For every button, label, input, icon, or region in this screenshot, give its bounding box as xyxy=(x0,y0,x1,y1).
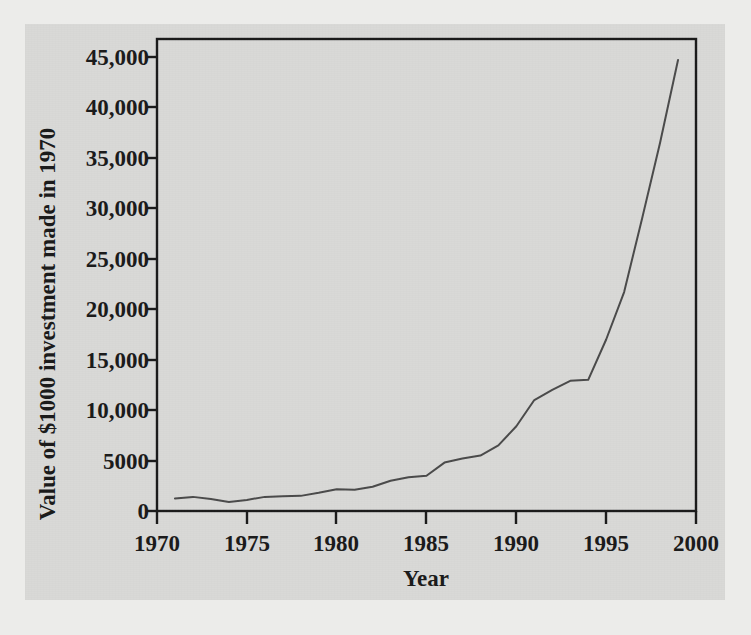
y-tick-label: 20,000 xyxy=(86,297,149,322)
plot-frame xyxy=(157,39,696,511)
y-tick-label: 35,000 xyxy=(86,146,149,171)
x-tick-label: 1995 xyxy=(583,531,629,556)
y-axis-ticks xyxy=(146,57,157,511)
x-tick-label: 1985 xyxy=(403,531,449,556)
scanned-page: Value of $1000 investment made in 1970 0… xyxy=(0,0,751,635)
y-tick-label: 45,000 xyxy=(86,45,149,70)
line-chart: Value of $1000 investment made in 1970 0… xyxy=(25,24,725,600)
y-tick-label: 40,000 xyxy=(86,95,149,120)
y-axis-title: Value of $1000 investment made in 1970 xyxy=(35,128,60,521)
data-series-line xyxy=(175,60,678,502)
y-axis-title-text: Value of $1000 investment made in 1970 xyxy=(35,128,60,521)
x-tick-label: 1975 xyxy=(224,531,270,556)
x-tick-label: 1990 xyxy=(493,531,539,556)
x-axis-title: Year xyxy=(403,566,449,591)
x-tick-label: 2000 xyxy=(673,531,719,556)
figure-panel: Value of $1000 investment made in 1970 0… xyxy=(25,24,725,600)
x-tick-label: 1980 xyxy=(313,531,359,556)
x-tick-labels: 1970 1975 1980 1985 1990 1995 2000 xyxy=(134,531,719,556)
y-tick-label: 25,000 xyxy=(86,247,149,272)
x-axis-ticks xyxy=(157,511,696,524)
y-tick-label: 15,000 xyxy=(86,348,149,373)
y-tick-labels: 0 5000 10,000 15,000 20,000 25,000 30,00… xyxy=(86,45,149,524)
y-tick-label: 30,000 xyxy=(86,196,149,221)
x-tick-label: 1970 xyxy=(134,531,180,556)
y-tick-label: 5000 xyxy=(103,449,149,474)
y-tick-label: 10,000 xyxy=(86,398,149,423)
